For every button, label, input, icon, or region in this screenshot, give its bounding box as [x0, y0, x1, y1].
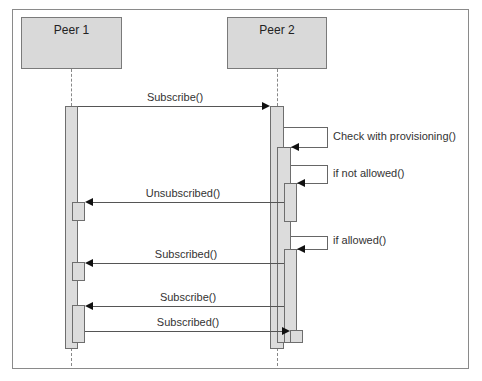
- message-line-unsubscribed: [93, 202, 284, 203]
- message-line-subscribed-final: [85, 331, 282, 332]
- participant-label: Peer 1: [54, 23, 89, 37]
- activation-peer-1-subscribed: [72, 262, 85, 281]
- participant-label: Peer 2: [259, 23, 294, 37]
- message-label-check-provisioning: Check with provisioning(): [333, 130, 456, 142]
- arrow-left-icon: [85, 302, 93, 310]
- participant-peer-1: Peer 1: [21, 17, 122, 69]
- activation-peer-1-subscribe: [72, 305, 85, 343]
- arrow-right-icon: [262, 102, 270, 110]
- message-label-subscribe-back: Subscribe(): [160, 291, 216, 303]
- activation-peer-1-unsubscribed: [72, 202, 85, 221]
- lifeline-peer-2-bottom: [277, 348, 278, 366]
- arrow-left-icon: [291, 143, 299, 151]
- message-label-if-allowed: if allowed(): [333, 234, 386, 246]
- lifeline-peer-1-top: [71, 69, 72, 106]
- message-label-subscribed-final: Subscribed(): [157, 316, 219, 328]
- arrow-left-icon: [85, 259, 93, 267]
- message-line-subscribe-back: [93, 306, 284, 307]
- participant-peer-2: Peer 2: [227, 17, 327, 69]
- arrow-left-icon: [297, 179, 305, 187]
- activation-peer-2-subscribed: [290, 330, 303, 343]
- lifeline-peer-2-top: [277, 69, 278, 106]
- arrow-right-icon: [282, 327, 290, 335]
- message-line-subscribe: [78, 106, 262, 107]
- message-label-unsubscribed: Unsubscribed(): [146, 187, 221, 199]
- lifeline-peer-1-bottom: [71, 348, 72, 366]
- activation-peer-2-not-allowed: [284, 183, 297, 222]
- message-label-subscribe: Subscribe(): [147, 91, 203, 103]
- message-line-subscribed: [93, 263, 284, 264]
- arrow-left-icon: [85, 198, 93, 206]
- message-label-subscribed: Subscribed(): [155, 248, 217, 260]
- message-label-if-not-allowed: if not allowed(): [333, 167, 405, 179]
- arrow-left-icon: [297, 245, 305, 253]
